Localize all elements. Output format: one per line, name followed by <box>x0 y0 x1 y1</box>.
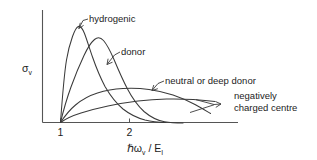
x-axis-label-slash: / <box>145 142 154 154</box>
x-tick-label-2: 2 <box>127 126 133 138</box>
annotation-donor: donor <box>121 46 145 57</box>
absorption-cross-section-chart: 1 2 σv ℏωv / EI hydrogenic donor neutral… <box>0 0 317 160</box>
annotation-neutral-or-deep-donor: neutral or deep donor <box>165 75 256 86</box>
annotation-hydrogenic: hydrogenic <box>89 13 136 24</box>
x-axis-label-numerator: ℏω <box>127 142 142 154</box>
x-axis-label-denominator-subscript: I <box>161 149 163 156</box>
annotation-negatively-charged-centre-line2: charged centre <box>234 102 297 113</box>
y-axis-label: σv <box>22 62 32 76</box>
x-tick-label-1: 1 <box>58 126 64 138</box>
x-axis-label-denominator: E <box>154 142 161 154</box>
x-axis-label: ℏωv / EI <box>127 142 163 156</box>
annotation-negatively-charged-centre-line1: negatively <box>234 90 277 101</box>
leader-line-negatively-charged-centre-lower <box>190 105 214 113</box>
y-axis-label-subscript: v <box>28 69 32 76</box>
curve-neutral-or-deep-donor <box>61 88 211 122</box>
